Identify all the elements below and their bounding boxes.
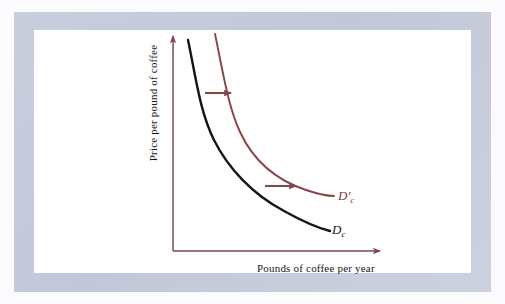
demand-curve-plot [0,0,505,304]
shifted-curve-label-subscript: c [350,195,354,205]
original-curve-label-letter: D [332,222,341,237]
original-curve-label-subscript: c [341,229,345,239]
original-demand-curve [188,40,330,231]
shifted-demand-curve-label: D′c [338,188,354,205]
figure-root: Price per pound of coffee Pounds of coff… [0,0,505,304]
shifted-demand-curve [215,34,334,196]
x-axis-label: Pounds of coffee per year [257,262,375,274]
original-demand-curve-label: Dc [332,222,345,239]
y-axis-label: Price per pound of coffee [147,45,159,162]
shifted-curve-label-letter: D [338,188,347,203]
